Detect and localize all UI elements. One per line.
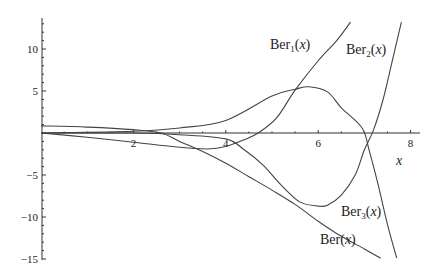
y-tick-label: −15 <box>21 253 39 265</box>
label-ber: Ber(x) <box>320 232 356 248</box>
y-tick-label: 10 <box>27 43 39 55</box>
x-tick-label: 8 <box>408 137 414 149</box>
label-ber3: Ber3(x) <box>341 204 382 221</box>
y-tick-label: −5 <box>26 169 38 181</box>
y-tick-label: 5 <box>33 85 39 97</box>
x-tick-label: 6 <box>315 137 321 149</box>
curves <box>41 22 401 258</box>
label-ber2: Ber2(x) <box>346 42 387 59</box>
y-tick-label: −10 <box>21 211 39 223</box>
kelvin-ber-chart: 2468 105−5−10−15 Ber1(x) Ber2(x) Ber3(x)… <box>0 0 439 274</box>
x-axis-label: x <box>395 153 403 168</box>
label-ber1: Ber1(x) <box>270 37 311 54</box>
